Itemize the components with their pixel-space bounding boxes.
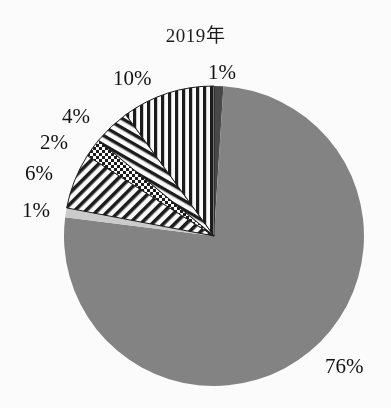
slice-label-6pct: 6%	[25, 163, 53, 184]
pie-chart-figure: 2019年	[0, 0, 391, 408]
pie-slices-group	[64, 86, 364, 386]
slice-label-4pct: 4%	[62, 106, 90, 127]
slice-label-2pct: 2%	[40, 132, 68, 153]
pie-chart-canvas	[0, 0, 391, 408]
slice-label-76pct: 76%	[325, 356, 364, 377]
slice-label-1pct-left: 1%	[22, 200, 50, 221]
slice-label-1pct-top: 1%	[208, 62, 236, 83]
slice-label-10pct: 10%	[113, 68, 152, 89]
